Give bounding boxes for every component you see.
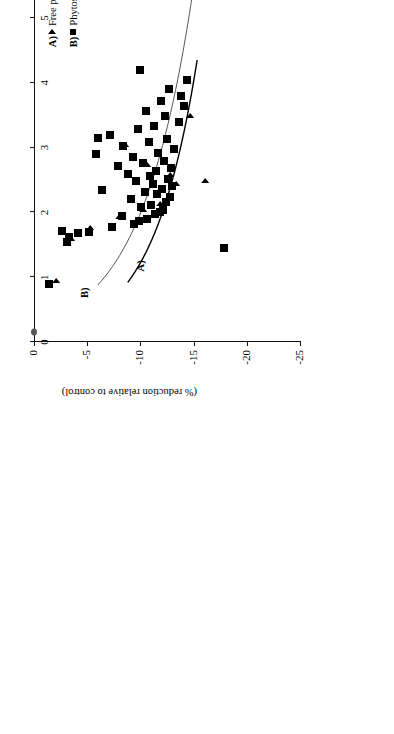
data-point-square [143, 215, 151, 223]
data-point-square [177, 92, 185, 100]
data-point-square [108, 223, 116, 231]
data-point-square [149, 180, 157, 188]
data-point-triangle [53, 278, 61, 283]
data-point-square [163, 135, 171, 143]
legend-row: B)Phytosterol/stanol esters: y = -4.92Ln… [68, 0, 80, 47]
data-point-square [183, 76, 191, 84]
data-point-square [220, 244, 228, 252]
data-point-triangle [156, 201, 164, 206]
legend-label: Phytosterol/stanol esters: y = -4.92Ln(x… [68, 0, 79, 26]
data-point-square [106, 131, 114, 139]
data-point-triangle [163, 196, 171, 201]
data-point-square [132, 177, 140, 185]
data-point-square [147, 201, 155, 209]
data-point-square [157, 97, 165, 105]
data-point-triangle [166, 172, 174, 177]
data-point-square [170, 145, 178, 153]
data-point-square [142, 107, 150, 115]
scatter-plot: 012345678910 0-5-10-15-20-25 (g sterol e… [0, 0, 394, 394]
curve-label-b: B) [79, 288, 90, 299]
data-point-square [158, 185, 166, 193]
data-point-square [175, 118, 183, 126]
data-point-square [98, 186, 106, 194]
curve-label-a: A) [135, 260, 146, 271]
data-point-square [92, 150, 100, 158]
data-point-square [159, 206, 167, 214]
data-point-triangle [187, 113, 195, 118]
data-point-triangle [67, 236, 75, 241]
data-point-square [129, 153, 137, 161]
data-point-square [134, 125, 142, 133]
data-point-square [150, 122, 158, 130]
regression-curve-b [98, 0, 219, 285]
data-point-square [154, 149, 162, 157]
data-point-square [127, 195, 135, 203]
data-point-square [124, 170, 132, 178]
rotated-figure-wrapper: 012345678910 0-5-10-15-20-25 (g sterol e… [0, 0, 394, 394]
data-point-triangle [115, 214, 123, 219]
data-point-square [58, 227, 66, 235]
legend-label: Free phytosterols/stanols: y = -4.2001Ln… [47, 0, 58, 26]
legend-key: B) [68, 37, 79, 48]
data-point-square [114, 162, 122, 170]
data-point-square [145, 138, 153, 146]
data-point-square [161, 113, 169, 121]
data-point-square [136, 66, 144, 74]
data-point-triangle [121, 142, 129, 147]
data-point-square [94, 134, 102, 142]
legend-marker-triangle-icon [48, 29, 56, 34]
data-point-triangle [202, 178, 210, 183]
data-point-triangle [143, 162, 151, 167]
data-point-square [165, 85, 173, 93]
data-point-square [180, 102, 188, 110]
legend-row: A)Free phytosterols/stanols: y = -4.2001… [47, 0, 59, 47]
data-point-triangle [87, 225, 95, 230]
data-point-square [152, 167, 160, 175]
origin-marker [31, 329, 37, 336]
legend-key: A) [47, 36, 58, 47]
regression-curves [0, 0, 394, 394]
regression-curve-a [128, 60, 197, 282]
legend-marker-square-icon [70, 29, 76, 35]
data-point-square [160, 157, 168, 165]
data-point-triangle [172, 181, 180, 186]
data-point-triangle [139, 207, 147, 212]
data-point-square [141, 188, 149, 196]
